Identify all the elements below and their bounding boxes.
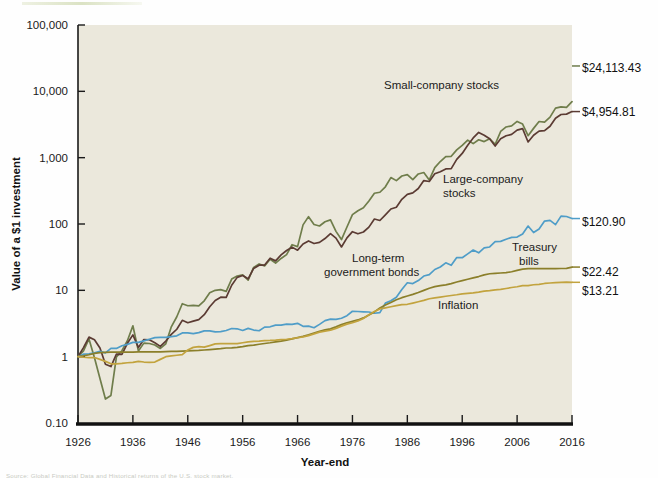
annotation-label: Long-term [352,252,404,264]
end-label-long-term-government-bonds: $120.90 [582,215,626,229]
annotation-label: Small-company stocks [384,79,499,91]
y-axis-title: Value of a $1 investment [10,157,22,291]
y-tick-label: 10,000 [33,85,68,97]
stock-returns-chart: 100,00010,0001,0001001010.10 19261936194… [0,0,658,478]
x-tick-label: 1926 [65,436,91,448]
decorative-top-rule [22,2,142,5]
chart-svg: 100,00010,0001,0001001010.10 19261936194… [0,0,658,478]
y-axis-ticks: 100,00010,0001,0001001010.10 [26,19,85,429]
annotation-label: stocks [443,187,476,199]
y-tick-label: 100 [49,218,68,230]
x-tick-label: 1996 [449,436,475,448]
y-tick-label: 0.10 [46,417,68,429]
x-tick-label: 1986 [395,436,421,448]
annotation-label: Inflation [438,299,478,311]
annotation-label: Treasury [512,241,557,253]
x-tick-label: 1956 [230,436,256,448]
y-tick-label: 1,000 [39,152,68,164]
end-label-treasury-bills: $22.42 [582,265,619,279]
x-tick-label: 1976 [340,436,366,448]
x-tick-label: 2006 [504,436,530,448]
y-tick-label: 1 [62,351,68,363]
annotation-label: government bonds [324,266,420,278]
end-label-large-company-stocks: $4,954.81 [582,105,636,119]
source-note: Source: Global Financial Data and Histor… [6,472,233,478]
x-tick-label: 1946 [175,436,201,448]
x-axis-title: Year-end [301,456,350,468]
x-tick-label: 2016 [559,436,585,448]
end-label-inflation: $13.21 [582,284,619,298]
annotation-inflation: Inflation [438,299,478,311]
y-tick-label: 100,000 [26,19,68,31]
annotation-label: Large-company [443,173,523,185]
end-value-labels: $24,113.43 $4,954.81 $120.90 $22.42 $13.… [582,61,641,298]
annotation-label: bills [519,255,539,267]
x-tick-label: 1936 [120,436,146,448]
x-tick-label: 1966 [285,436,311,448]
y-tick-label: 10 [55,284,68,296]
annotation-small-company-stocks: Small-company stocks [384,79,499,91]
end-label-small-company-stocks: $24,113.43 [582,61,641,75]
